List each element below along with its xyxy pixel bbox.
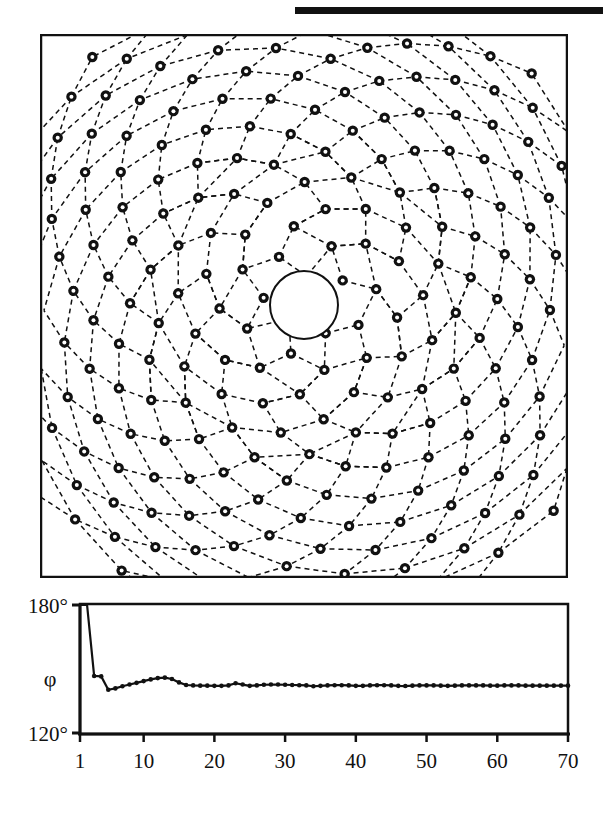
spiral-point — [269, 159, 279, 169]
data-point — [417, 683, 422, 688]
spiral-point — [474, 333, 484, 343]
data-point — [424, 683, 429, 688]
spiral-point — [227, 422, 237, 432]
spiral-point — [229, 541, 239, 551]
spiral-point — [463, 188, 473, 198]
spiral-point — [153, 174, 163, 184]
spiral-point — [110, 532, 120, 542]
spiral-point — [459, 543, 469, 553]
data-point — [375, 683, 380, 688]
spiral-point — [116, 167, 126, 177]
spiral-point — [192, 158, 202, 168]
spiral-point — [276, 427, 286, 437]
spiral-point — [84, 363, 94, 373]
data-point — [177, 680, 182, 685]
spiral-point — [413, 485, 423, 495]
spiral-point — [493, 548, 503, 558]
data-point — [262, 682, 267, 687]
spiral-point — [184, 510, 194, 520]
spiral-point — [281, 561, 291, 571]
spiral-point — [218, 467, 228, 477]
spiral-point — [101, 90, 111, 100]
spiral-point — [190, 328, 200, 338]
spiral-point — [361, 204, 371, 214]
spiral-point — [392, 312, 402, 322]
spiral-point — [525, 222, 535, 232]
spiral-point — [190, 545, 200, 555]
data-point — [240, 682, 245, 687]
spiral-point — [513, 322, 523, 332]
data-point — [283, 682, 288, 687]
spiral-point — [109, 497, 119, 507]
spiral-point — [425, 418, 435, 428]
figure-root: 180° 120° φ 110203040506070 — [0, 0, 603, 825]
spiral-point — [258, 293, 268, 303]
spiral-point — [556, 161, 566, 171]
spiral-point — [217, 94, 227, 104]
spiral-point — [344, 521, 354, 531]
spiral-point — [282, 475, 292, 485]
spiral-point — [125, 298, 135, 308]
data-point — [141, 679, 146, 684]
spiral-point — [387, 428, 397, 438]
spiral-point — [173, 240, 183, 250]
x-tick-label: 20 — [204, 749, 225, 773]
spiral-point — [449, 363, 459, 373]
spiral-point — [487, 120, 497, 130]
spiral-point — [216, 389, 226, 399]
spiral-point — [423, 452, 433, 462]
x-tick-label: 60 — [487, 749, 508, 773]
spiral-point — [116, 565, 126, 575]
spiral-point — [87, 52, 97, 62]
spiral-point — [485, 51, 495, 61]
spiral-point — [81, 205, 91, 215]
spiral-point — [122, 54, 132, 64]
spiral-point — [80, 167, 90, 177]
data-point — [354, 684, 359, 689]
spiral-point — [499, 397, 509, 407]
spiral-point — [459, 465, 469, 475]
data-point — [191, 683, 196, 688]
data-point — [474, 683, 479, 688]
spiral-point — [417, 384, 427, 394]
spiral-point — [113, 463, 123, 473]
y-tick-label-180: 180° — [28, 596, 68, 618]
data-point — [226, 683, 231, 688]
data-point — [276, 682, 281, 687]
data-point — [488, 683, 493, 688]
spiral-point — [429, 183, 439, 193]
spiral-point — [348, 125, 358, 135]
spiral-point — [514, 509, 524, 519]
spiral-point — [381, 462, 391, 472]
data-point — [297, 683, 302, 688]
spiral-point — [370, 545, 380, 555]
spiral-point — [466, 272, 476, 282]
spiral-point — [394, 256, 404, 266]
spiral-point — [121, 131, 131, 141]
spiral-point — [362, 43, 372, 53]
spiral-point — [117, 202, 127, 212]
data-point — [170, 677, 175, 682]
spiral-point — [241, 66, 251, 76]
spiral-point — [242, 323, 252, 333]
spiral-point — [318, 414, 328, 424]
data-point — [481, 683, 486, 688]
spiral-point — [548, 506, 558, 516]
spiral-point — [320, 204, 330, 214]
data-point — [325, 683, 330, 688]
spiral-point — [245, 121, 255, 131]
spiral-point — [544, 193, 554, 203]
data-point — [566, 683, 571, 688]
spiral-point — [114, 383, 124, 393]
spiral-point — [489, 85, 499, 95]
x-tick-label: 1 — [75, 749, 86, 773]
data-point — [530, 683, 535, 688]
spiral-point — [145, 264, 155, 274]
spiral-point — [213, 45, 223, 55]
x-axis-tick-labels: 110203040506070 — [75, 749, 579, 773]
spiral-point — [179, 361, 189, 371]
data-point — [389, 683, 394, 688]
spiral-point — [418, 290, 428, 300]
spiral-point — [173, 288, 183, 298]
spiral-svg — [40, 34, 568, 578]
